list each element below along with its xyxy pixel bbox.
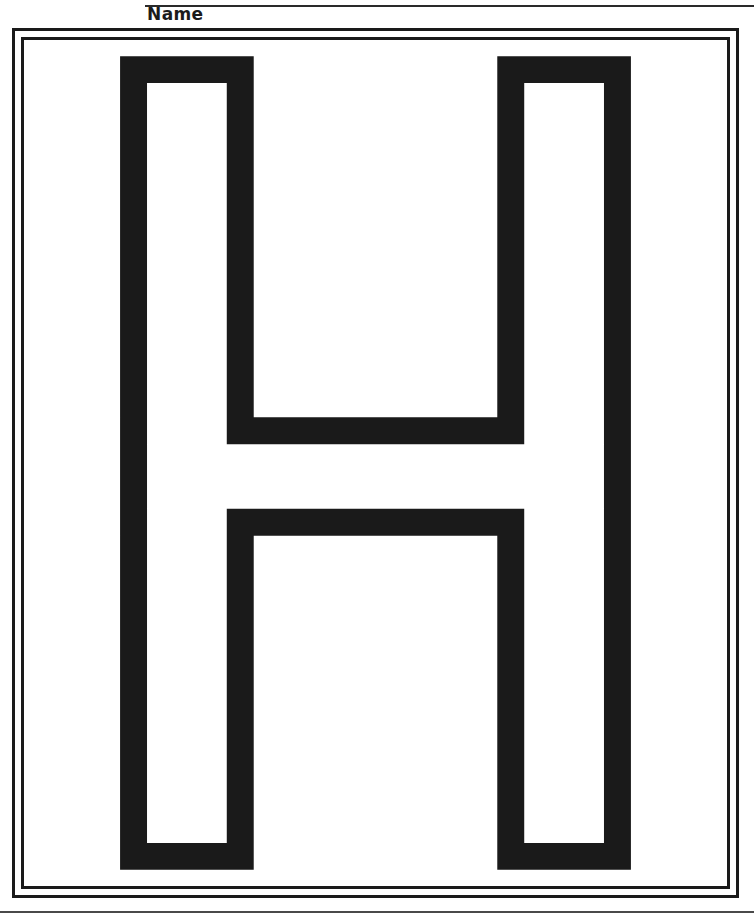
name-rule — [145, 5, 754, 7]
footer-rule — [0, 911, 754, 913]
letter-graphic-area — [24, 40, 727, 886]
worksheet-page: Name — [0, 0, 754, 919]
letter-h-inner-contour — [147, 83, 604, 843]
letter-h-outline-icon — [24, 40, 727, 886]
name-label: Name — [147, 4, 204, 25]
